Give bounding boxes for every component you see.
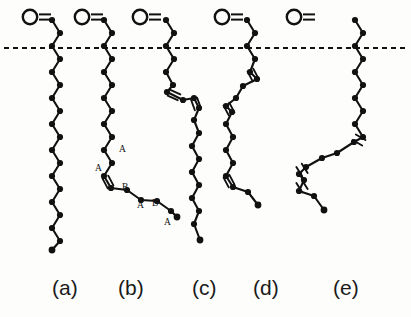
carbon-vertex	[311, 193, 317, 199]
carbon-vertex	[252, 56, 258, 62]
carbon-vertex	[240, 83, 246, 89]
carbon-vertex	[109, 108, 115, 114]
carbonyl-group-e	[287, 10, 315, 24]
carbon-vertex	[360, 30, 366, 36]
panel-label-c: (c)	[192, 276, 217, 299]
conformer-label-B: B	[122, 182, 128, 192]
panel-label-layer: (a)(b)(c)(d)(e)	[52, 276, 359, 299]
carbonyl-group-a	[23, 10, 51, 24]
carbonyl-group-d	[215, 10, 243, 24]
carbon-vertex	[49, 121, 55, 127]
chain-e	[296, 17, 366, 214]
carbon-vertex	[49, 225, 55, 231]
carbon-vertex	[189, 169, 195, 175]
carbon-vertex	[57, 134, 63, 140]
carbon-vertex	[334, 150, 340, 156]
carbon-vertex	[319, 155, 325, 161]
figure-canvas: AABABA (a)(b)(c)(d)(e)	[0, 0, 411, 317]
carbon-vertex	[57, 186, 63, 192]
carbon-vertex	[57, 108, 63, 114]
carbon-vertex	[109, 134, 115, 140]
carbon-vertex	[109, 82, 115, 88]
terminal-carbon-vertex	[49, 247, 56, 254]
oxygen-atom-icon	[287, 10, 301, 24]
terminal-carbon-vertex	[255, 202, 262, 209]
chain-layer	[49, 17, 367, 254]
carbon-vertex	[49, 173, 55, 179]
carbon-vertex	[223, 147, 229, 153]
carbon-vertex	[171, 56, 177, 62]
carbon-vertex	[171, 30, 177, 36]
carbon-vertex	[49, 69, 55, 75]
chain-backbone-b	[104, 20, 177, 217]
carbon-vertex	[223, 121, 229, 127]
carbon-vertex	[360, 82, 366, 88]
carbon-vertex	[101, 95, 107, 101]
carbon-vertex	[49, 147, 55, 153]
terminal-carbon-vertex	[174, 214, 181, 221]
conformer-label-B: B	[152, 198, 158, 208]
panel-label-e: (e)	[333, 276, 359, 299]
carbon-vertex	[189, 195, 195, 201]
carbon-vertex	[164, 89, 170, 95]
carbon-vertex	[57, 212, 63, 218]
carbon-vertex	[57, 160, 63, 166]
carbon-vertex	[168, 208, 174, 214]
carbonyl-group-b	[75, 10, 103, 24]
carbon-vertex	[57, 56, 63, 62]
oxygen-atom-icon	[23, 10, 37, 24]
carbon-vertex	[57, 30, 63, 36]
carbon-vertex	[49, 17, 55, 23]
panel-label-b: (b)	[118, 276, 144, 299]
carbon-vertex	[191, 221, 197, 227]
carbon-vertex	[352, 17, 358, 23]
carbon-vertex	[230, 134, 236, 140]
carbon-vertex	[109, 160, 115, 166]
carbon-vertex	[109, 56, 115, 62]
carbon-vertex	[196, 182, 202, 188]
carbon-vertex	[360, 108, 366, 114]
chain-a	[49, 17, 64, 254]
carbon-vertex	[244, 43, 250, 49]
carbon-vertex	[191, 117, 197, 123]
terminal-carbon-vertex	[321, 207, 328, 214]
conformer-label-A: A	[164, 217, 171, 227]
oxygen-atom-icon	[133, 10, 147, 24]
carbon-vertex	[252, 30, 258, 36]
carbon-vertex	[230, 160, 236, 166]
carbon-vertex	[163, 69, 169, 75]
carbon-vertex	[49, 95, 55, 101]
carbon-vertex	[352, 69, 358, 75]
panel-label-a: (a)	[52, 276, 78, 299]
carbon-vertex	[360, 56, 366, 62]
carbon-vertex	[180, 97, 186, 103]
carbon-vertex	[244, 17, 250, 23]
carbon-vertex	[101, 147, 107, 153]
carbon-vertex	[170, 82, 176, 88]
carbon-vertex	[109, 30, 115, 36]
carbon-vertex	[352, 95, 358, 101]
carbon-vertex	[196, 208, 202, 214]
carbon-vertex	[101, 69, 107, 75]
carbon-vertex	[57, 238, 63, 244]
chain-backbone-c	[166, 20, 200, 240]
carbon-vertex	[189, 143, 195, 149]
carbon-vertex	[233, 95, 239, 101]
carbon-vertex	[57, 82, 63, 88]
carbon-vertex	[245, 189, 251, 195]
panel-label-d: (d)	[253, 276, 279, 299]
terminal-carbon-vertex	[197, 237, 204, 244]
carbonyl-group-layer	[23, 10, 315, 24]
carbon-vertex	[196, 130, 202, 136]
conformer-label-A: A	[95, 163, 102, 173]
fatty-acid-conformation-figure: AABABA (a)(b)(c)(d)(e)	[0, 0, 411, 317]
carbon-vertex	[49, 199, 55, 205]
carbon-vertex	[352, 121, 358, 127]
conformer-label-A: A	[137, 200, 144, 210]
carbon-vertex	[101, 121, 107, 127]
carbon-vertex	[49, 43, 55, 49]
carbon-vertex	[101, 17, 107, 23]
carbon-vertex	[196, 156, 202, 162]
chain-d	[223, 17, 262, 209]
carbon-vertex	[101, 43, 107, 49]
